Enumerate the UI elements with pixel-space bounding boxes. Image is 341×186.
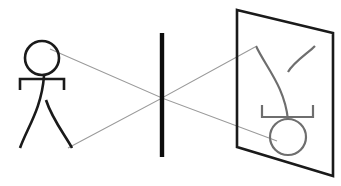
- pinhole-camera-diagram: Pinhole camera image formation diagram A…: [0, 0, 341, 186]
- diagram-canvas: [0, 0, 341, 186]
